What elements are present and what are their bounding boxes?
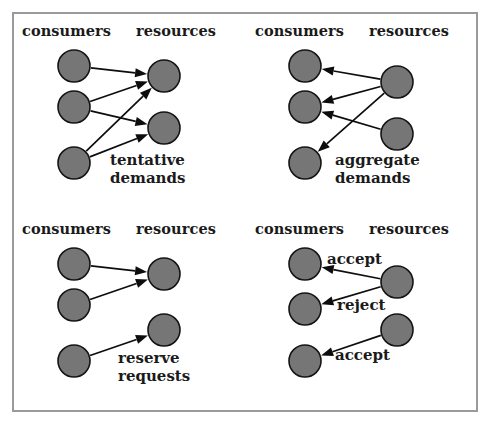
edge-c1-to-r1: [91, 111, 136, 122]
consumer-node-0: [289, 248, 321, 280]
panel-2-caption-line2: requests: [118, 368, 190, 386]
consumer-node-2: [58, 345, 90, 377]
edge-c1-to-r0: [90, 283, 137, 299]
edge-r0-to-c0: [334, 71, 381, 79]
consumer-node-2: [289, 147, 321, 179]
edge-c1-to-r0: [90, 85, 137, 101]
panel-3-heading-resources: resources: [369, 220, 449, 237]
resource-node-0: [148, 258, 180, 290]
consumer-node-2: [58, 147, 90, 179]
resource-node-1: [148, 314, 180, 346]
panel-tentative-demands: consumers resources tentative demands: [14, 14, 247, 214]
panel-1-caption-line2: demands: [335, 170, 420, 188]
consumer-node-1: [58, 91, 90, 123]
arrowhead-r0-to-c1: [321, 296, 334, 305]
panel-3-heading-consumers: consumers: [255, 220, 344, 237]
arrowhead-c2-to-r1: [135, 134, 148, 143]
resource-node-0: [381, 66, 413, 98]
panel-2-caption-line1: reserve: [118, 350, 190, 368]
edge-r0-to-c2: [327, 93, 384, 144]
panel-0-heading-consumers: consumers: [22, 22, 111, 39]
arrowhead-c1-to-r0: [135, 81, 148, 90]
resource-node-1: [381, 118, 413, 150]
panel-0-caption-line1: tentative: [110, 152, 185, 170]
arrowhead-c1-to-r0: [135, 279, 148, 288]
consumer-node-0: [58, 50, 90, 82]
panel-1-caption: aggregate demands: [335, 152, 420, 187]
panel-2-heading-consumers: consumers: [22, 220, 111, 237]
arrowhead-c0-to-r0: [135, 266, 147, 275]
arrowhead-r0-to-c1: [321, 95, 334, 104]
panel-0-caption-line2: demands: [110, 170, 185, 188]
consumer-node-1: [289, 91, 321, 123]
edge-c2-to-r0: [86, 96, 143, 151]
panel-accept-reject: consumers resources acceptrejectaccept: [247, 212, 480, 412]
arrowhead-c0-to-r0: [135, 68, 147, 77]
panel-2-caption: reserve requests: [118, 350, 190, 385]
arrowhead-r1-to-c2: [321, 347, 334, 356]
edge-label-accept-reject-1: reject: [337, 296, 385, 314]
edge-c0-to-r0: [91, 266, 135, 271]
resource-node-0: [381, 266, 413, 298]
edge-r0-to-c0: [333, 270, 380, 279]
consumer-node-0: [58, 248, 90, 280]
resource-node-1: [381, 314, 413, 346]
panel-aggregate-demands: consumers resources aggregate demands: [247, 14, 480, 214]
consumer-node-2: [289, 345, 321, 377]
figure-frame: consumers resources tentative demands co…: [12, 12, 478, 412]
panel-1-heading-resources: resources: [369, 22, 449, 39]
consumer-node-1: [58, 289, 90, 321]
panel-1-caption-line1: aggregate: [335, 152, 420, 170]
consumer-node-1: [289, 293, 321, 325]
arrowhead-c2-to-r1: [135, 335, 148, 344]
edge-label-accept-reject-0: accept: [327, 250, 382, 268]
edge-c0-to-r0: [91, 68, 135, 73]
figure-root: consumers resources tentative demands co…: [0, 0, 492, 429]
consumer-node-0: [289, 50, 321, 82]
resource-node-0: [148, 60, 180, 92]
panel-2-heading-resources: resources: [136, 220, 216, 237]
arrowhead-r0-to-c0: [322, 66, 335, 75]
edge-r0-to-c1: [333, 86, 381, 99]
arrowhead-r1-to-c1: [321, 111, 334, 120]
panel-1-heading-consumers: consumers: [255, 22, 344, 39]
panel-0-heading-resources: resources: [136, 22, 216, 39]
panel-0-caption: tentative demands: [110, 152, 185, 187]
arrowhead-c1-to-r1: [135, 117, 148, 126]
panel-reserve-requests: consumers resources reserve requests: [14, 212, 247, 412]
edge-label-accept-reject-2: accept: [335, 346, 390, 364]
resource-node-1: [148, 112, 180, 144]
